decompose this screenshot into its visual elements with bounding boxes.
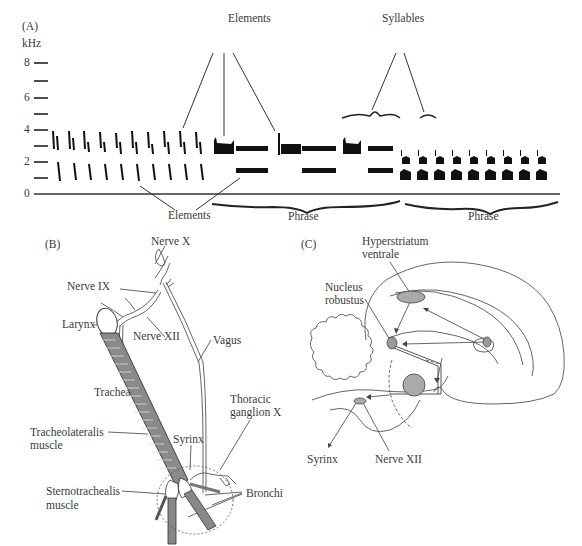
label-hyperstriatum-1: Hyperstriatum xyxy=(362,235,428,248)
label-nerve-x: Nerve X xyxy=(151,235,190,248)
panel-b-label: (B) xyxy=(45,238,60,251)
y-axis-ticks xyxy=(34,63,48,178)
panel-c-label: (C) xyxy=(301,238,316,251)
phrase-2-syllables xyxy=(400,150,547,180)
hyperstriatum-ventrale xyxy=(397,291,425,303)
label-nerve-ix: Nerve IX xyxy=(67,280,110,293)
label-nucleus-2: robustus xyxy=(325,294,364,307)
label-tracheolateralis-2: muscle xyxy=(30,439,63,452)
label-syrinx-c: Syrinx xyxy=(307,453,338,466)
label-thoracic-ganglion-2: ganglion X xyxy=(230,406,281,419)
annotation-leaders xyxy=(140,53,424,210)
label-hyperstriatum-2: ventrale xyxy=(362,248,399,261)
trachea xyxy=(100,333,188,486)
label-nerve-xii-c: Nerve XII xyxy=(375,453,422,466)
label-syrinx: Syrinx xyxy=(173,433,204,446)
midbrain-nucleus xyxy=(403,374,425,396)
label-vagus: Vagus xyxy=(213,334,241,347)
hypoglossal-nucleus xyxy=(354,398,366,404)
label-bronchi: Bronchi xyxy=(246,487,283,500)
label-sternotrachealis-1: Sternotrachealis xyxy=(46,485,120,498)
spectrogram-graphic xyxy=(0,0,582,230)
phrase-1-syllables xyxy=(214,133,393,173)
label-thoracic-ganglion-1: Thoracic xyxy=(230,393,271,406)
label-nucleus-1: Nucleus xyxy=(325,281,363,294)
posterior-nucleus xyxy=(483,337,491,347)
label-tracheolateralis-1: Tracheolateralis xyxy=(30,426,104,439)
trill-elements xyxy=(52,131,204,181)
label-larynx: Larynx xyxy=(62,318,95,331)
label-trachea: Trachea xyxy=(94,386,131,399)
label-nerve-xii: Nerve XII xyxy=(133,330,180,343)
nucleus-robustus xyxy=(387,337,397,349)
label-sternotrachealis-2: muscle xyxy=(46,499,79,512)
